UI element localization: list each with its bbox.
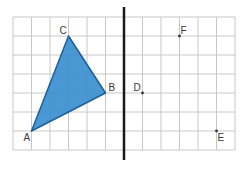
vertex-b-label: B <box>109 82 116 93</box>
point-d-label: D <box>134 82 141 93</box>
point-f-label: F <box>181 25 187 36</box>
vertex-c-label: C <box>60 25 67 36</box>
point-e-label: E <box>218 132 225 143</box>
reflection-diagram: DFEABC <box>0 0 250 183</box>
vertex-a-label: A <box>24 132 31 143</box>
point-d-dot <box>141 92 144 95</box>
diagram-canvas: DFEABC <box>0 0 250 183</box>
